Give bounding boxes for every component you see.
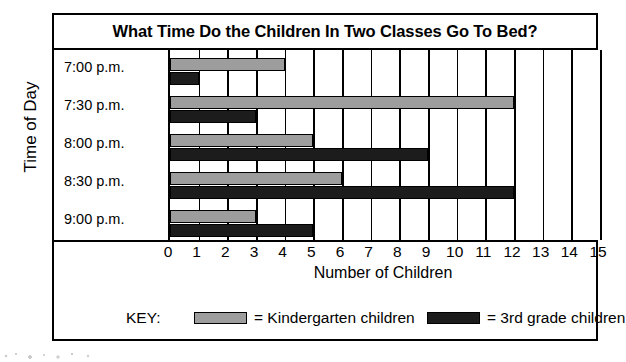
gridline xyxy=(342,50,344,240)
legend-item-kindergarten: = Kindergarten children xyxy=(194,309,415,327)
y-axis-tick-label: 9:00 p.m. xyxy=(56,211,160,227)
gridline xyxy=(428,50,430,240)
gridline xyxy=(399,50,401,240)
gridline xyxy=(514,50,516,240)
x-axis-tick-label: 1 xyxy=(182,243,212,261)
bar-kinder xyxy=(170,210,256,223)
x-axis-tick-labels: 0123456789101112131415 xyxy=(0,243,626,265)
x-axis-tick-label: 6 xyxy=(325,243,355,261)
gridline xyxy=(485,50,487,240)
x-axis-tick-label: 12 xyxy=(497,243,527,261)
x-axis-tick-label: 7 xyxy=(354,243,384,261)
bar-grade3 xyxy=(170,224,313,237)
x-axis-tick-label: 8 xyxy=(382,243,412,261)
x-axis-tick-label: 4 xyxy=(268,243,298,261)
x-axis-tick-label: 3 xyxy=(239,243,269,261)
bar-kinder xyxy=(170,172,342,185)
legend-swatch-kindergarten-icon xyxy=(194,312,247,324)
x-axis-tick-label: 15 xyxy=(583,243,613,261)
x-axis-tick-label: 10 xyxy=(440,243,470,261)
y-axis-tick-label: 7:30 p.m. xyxy=(56,97,160,113)
x-axis-tick-label: 13 xyxy=(526,243,556,261)
plot-area xyxy=(168,50,602,240)
gridline xyxy=(371,50,373,240)
legend-item-grade3: = 3rd grade children xyxy=(427,309,625,327)
bar-grade3 xyxy=(170,186,514,199)
bar-kinder xyxy=(170,134,313,147)
legend-swatch-grade3-icon xyxy=(427,312,480,324)
bar-grade3 xyxy=(170,72,199,85)
gridline xyxy=(571,50,573,240)
chart-title-band: What Time Do the Children In Two Classes… xyxy=(54,15,596,48)
chart-legend: KEY: = Kindergarten children = 3rd grade… xyxy=(54,296,596,339)
bar-kinder xyxy=(170,58,285,71)
bar-grade3 xyxy=(170,148,428,161)
x-axis-tick-label: 9 xyxy=(411,243,441,261)
gridline xyxy=(313,50,315,240)
y-axis-tick-label: 8:00 p.m. xyxy=(56,135,160,151)
legend-label-kindergarten: = Kindergarten children xyxy=(254,309,415,327)
y-axis-title: Time of Day xyxy=(21,62,43,192)
gridline xyxy=(457,50,459,240)
legend-key-label: KEY: xyxy=(126,309,160,327)
chart-title: What Time Do the Children In Two Classes… xyxy=(113,22,538,41)
x-axis-tick-label: 0 xyxy=(153,243,183,261)
gridline xyxy=(543,50,545,240)
bar-kinder xyxy=(170,96,514,109)
x-axis-tick-label: 14 xyxy=(554,243,584,261)
legend-label-grade3: = 3rd grade children xyxy=(487,309,625,327)
y-axis-tick-label: 8:30 p.m. xyxy=(56,173,160,189)
x-axis-baseline xyxy=(54,240,598,242)
y-axis-category-labels: 7:00 p.m.7:30 p.m.8:00 p.m.8:30 p.m.9:00… xyxy=(56,50,168,240)
bar-grade3 xyxy=(170,110,256,123)
x-axis-tick-label: 2 xyxy=(210,243,240,261)
x-axis-tick-label: 5 xyxy=(296,243,326,261)
x-axis-tick-label: 11 xyxy=(468,243,498,261)
x-axis-title: Number of Children xyxy=(168,264,598,282)
bar-chart-figure: What Time Do the Children In Two Classes… xyxy=(0,0,626,362)
y-axis-tick-label: 7:00 p.m. xyxy=(56,59,160,75)
scan-artifact xyxy=(0,348,120,362)
